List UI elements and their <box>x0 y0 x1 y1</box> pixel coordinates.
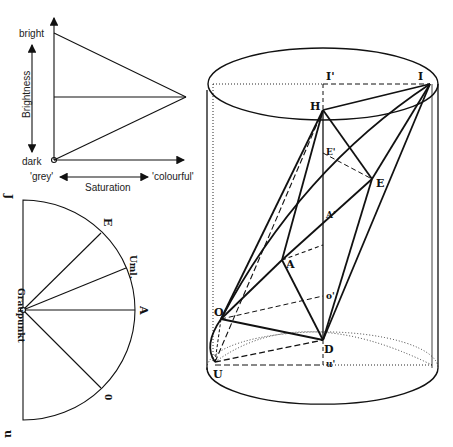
label-saturation: Saturation <box>85 182 131 193</box>
figure-canvas: bright dark Brightness 'grey' 'colourful… <box>0 0 453 447</box>
triangle-diagram <box>32 18 186 177</box>
ray-E <box>23 233 101 310</box>
edge-A-D <box>282 260 323 340</box>
point-E-prime: E' <box>326 147 336 157</box>
bottom-front-arc <box>207 368 438 404</box>
label-ray-E: E <box>101 218 114 226</box>
edge-H-O <box>221 110 323 319</box>
label-brightness: Brightness <box>21 71 32 118</box>
edge-H-A <box>282 110 323 260</box>
curve-I-O-U <box>210 84 430 362</box>
point-O: O <box>214 306 224 319</box>
U-H-dashed <box>215 110 323 362</box>
edge-I-D <box>323 84 430 340</box>
ray-O <box>23 310 101 388</box>
point-E: E <box>376 177 384 190</box>
U-D-dashed <box>215 340 323 362</box>
edge-O-D <box>221 319 323 340</box>
semicircle-diagram <box>21 200 136 420</box>
point-A-prime: A' <box>325 210 336 220</box>
O-projection <box>221 296 323 319</box>
label-ray-O: 0 <box>103 394 113 400</box>
label-dark: dark <box>22 156 42 167</box>
label-J: J <box>2 193 15 199</box>
point-A: A <box>285 258 295 271</box>
point-o-prime: o' <box>326 291 335 301</box>
label-graupunkt: Graupunkt <box>16 288 26 343</box>
label-grey: 'grey' <box>30 171 53 182</box>
cylinder-diagram <box>207 48 438 404</box>
point-I-prime: I' <box>326 70 335 83</box>
point-D: D <box>324 343 334 356</box>
upper-edge <box>54 33 186 97</box>
point-I: I <box>418 70 423 83</box>
ray-uml <box>23 268 126 310</box>
edge-H-E <box>323 110 372 179</box>
label-u: u <box>2 430 15 438</box>
label-bright: bright <box>19 28 44 39</box>
edge-O-A <box>221 260 282 319</box>
edge-I-E <box>372 84 430 179</box>
lower-edge <box>54 97 186 160</box>
point-H: H <box>310 100 320 113</box>
label-colourful: 'colourful' <box>152 171 194 182</box>
edge-E-D <box>323 179 372 340</box>
point-u-prime: u' <box>326 359 335 369</box>
label-ray-uml: Uml. <box>128 255 138 279</box>
label-ray-A: A <box>137 305 150 315</box>
point-U: U <box>213 368 223 381</box>
